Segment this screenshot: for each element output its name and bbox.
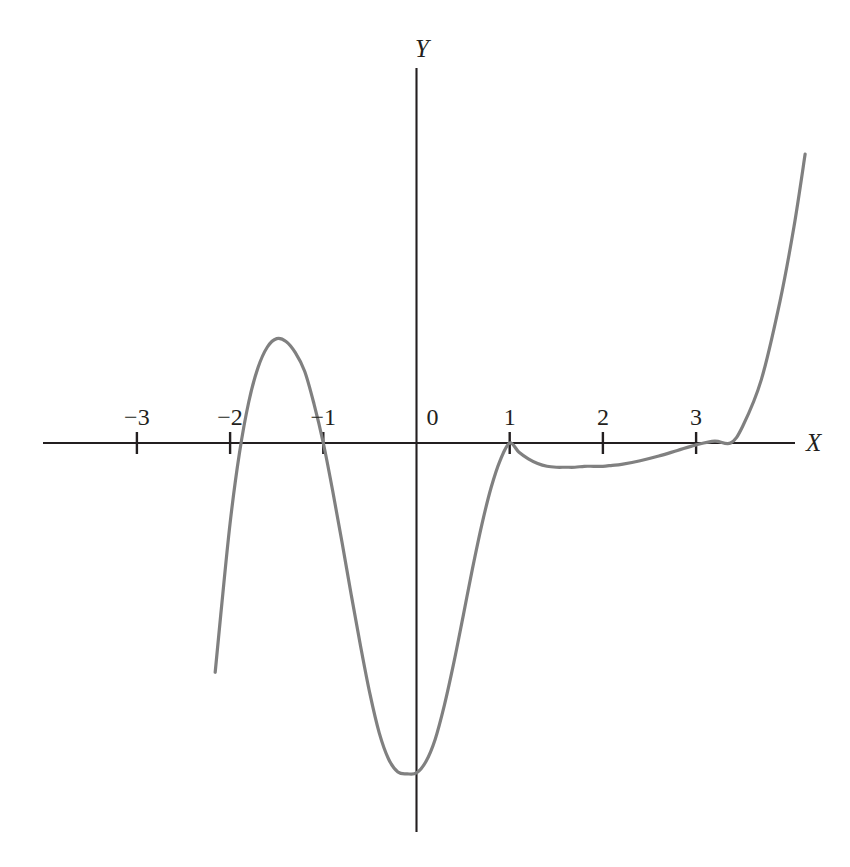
x-axis-label: X [806, 430, 821, 455]
polynomial-curve [215, 154, 805, 774]
x-tick-label-1: 1 [504, 405, 516, 429]
curve-group [215, 154, 805, 774]
x-tick-label-neg2: −2 [217, 405, 243, 429]
y-axis-label: Y [415, 36, 429, 61]
x-tick-label-neg1: −1 [311, 405, 337, 429]
graph-figure: −3−2−10123 X Y [0, 0, 850, 867]
x-tick-label-0: 0 [427, 405, 439, 429]
x-tick-label-2: 2 [597, 405, 609, 429]
x-tick-label-3: 3 [690, 405, 702, 429]
plot-canvas [0, 0, 850, 867]
x-tick-label-neg3: −3 [124, 405, 150, 429]
